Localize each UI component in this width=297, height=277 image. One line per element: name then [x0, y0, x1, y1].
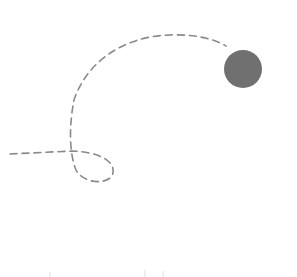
trajectory-diagram — [0, 0, 297, 277]
dashed-trajectory-path — [10, 35, 226, 182]
bottom-clipped-marks — [50, 270, 163, 277]
ball-icon — [224, 50, 262, 88]
